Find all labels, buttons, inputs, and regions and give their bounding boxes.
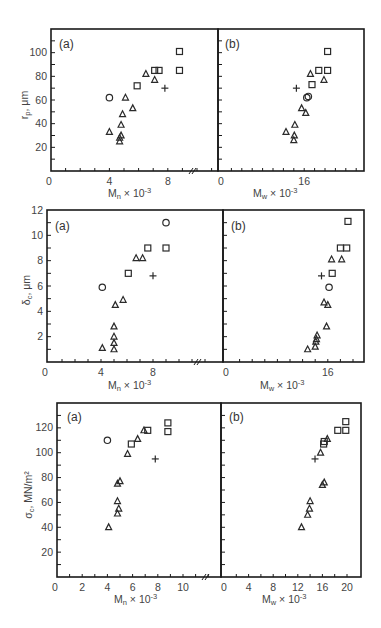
panel-label-mid-b: (b) [231,219,246,233]
svg-text:10: 10 [31,229,43,241]
marker-square [316,67,322,73]
svg-text:16: 16 [322,366,334,378]
marker-triangle [292,121,298,127]
svg-text:20: 20 [35,141,47,153]
ticks-bottom: 204060801001200246810048121620 [35,415,353,593]
marker-square [343,419,349,425]
svg-text:20: 20 [41,546,53,558]
marker-triangle [118,121,124,127]
svg-text:4: 4 [37,305,43,317]
svg-text:16: 16 [317,581,329,593]
frame-bot-b [221,403,361,577]
marker-triangle [122,94,128,100]
marker-triangle [120,297,126,303]
frame-bot-a [57,403,221,577]
marker-triangle [140,255,146,261]
marker-square [344,245,350,251]
marker-triangle [111,323,117,329]
marker-triangle [106,524,112,530]
marker-triangle [135,436,141,442]
row-middle: 24681012048016 (a) (b) δc, μm Mn × 10-3 … [20,204,364,394]
xlabel-top-a: Mn × 10-3 [108,186,151,201]
marker-triangle [111,333,117,339]
svg-text:100: 100 [35,446,53,458]
svg-text:2: 2 [37,330,43,342]
marker-triangle [299,105,305,111]
svg-text:0: 0 [42,366,48,378]
svg-text:16: 16 [298,175,310,187]
marker-circle [326,284,332,290]
marker-triangle [283,129,289,135]
marker-triangle [99,345,105,351]
marker-circle [106,94,112,100]
marker-triangle [298,524,304,530]
xlabel-top-b: Mw × 10-3 [253,186,298,201]
marker-square [125,270,131,276]
marker-triangle [305,511,311,517]
points-bot-a [104,420,171,530]
marker-triangle [339,256,345,262]
svg-text:8: 8 [270,581,276,593]
marker-triangle [133,255,139,261]
xlabel-bot-b: Mw × 10-3 [262,592,307,607]
xlabel-mid-b: Mw × 10-3 [260,378,305,393]
svg-text:6: 6 [37,280,43,292]
panel-label-bot-a: (a) [67,410,82,424]
row-top: 20406080100048016 (a) (b) rp, μm Mn × 10… [18,29,364,201]
svg-text:60: 60 [35,94,47,106]
marker-triangle [114,498,120,504]
marker-triangle [307,71,313,77]
points-mid-b [305,218,351,351]
row-bottom: 204060801001200246810048121620 (a) (b) σ… [22,403,361,607]
figure-canvas: 20406080100048016 (a) (b) rp, μm Mn × 10… [0,0,381,628]
marker-triangle [117,478,123,484]
ylabel-top: rp, μm [18,91,32,120]
marker-triangle [112,302,118,308]
svg-text:100: 100 [29,46,47,58]
svg-text:8: 8 [165,175,171,187]
svg-text:8: 8 [37,254,43,266]
panel-label-bot-b: (b) [229,410,244,424]
svg-text:40: 40 [41,521,53,533]
marker-circle [99,284,105,290]
panel-label-top-a: (a) [59,37,74,51]
marker-circle [104,437,110,443]
svg-text:10: 10 [177,581,189,593]
marker-square [176,48,182,54]
marker-triangle [152,76,158,82]
marker-square [165,420,171,426]
marker-triangle [120,111,126,117]
svg-text:0: 0 [218,175,224,187]
panel-label-mid-a: (a) [55,219,70,233]
ylabel-middle: δc, μm [20,275,34,305]
marker-triangle [324,323,330,329]
frame-mid-a [47,210,223,362]
svg-text:80: 80 [35,70,47,82]
marker-square [165,429,171,435]
marker-square [335,427,341,433]
marker-square [345,218,351,224]
marker-triangle [130,105,136,111]
svg-text:0: 0 [52,581,58,593]
points-top-b [283,48,331,142]
marker-triangle [111,346,117,352]
svg-text:0: 0 [221,581,227,593]
svg-text:40: 40 [35,117,47,129]
xlabel-bot-a: Mn × 10-3 [114,592,157,607]
marker-square [134,83,140,89]
svg-text:12: 12 [31,204,43,216]
svg-text:20: 20 [341,581,353,593]
marker-triangle [143,71,149,77]
svg-text:6: 6 [130,581,136,593]
marker-square [176,67,182,73]
marker-triangle [321,76,327,82]
marker-square [329,270,335,276]
svg-text:4: 4 [104,581,110,593]
marker-circle [163,219,169,225]
marker-triangle [318,449,324,455]
svg-text:80: 80 [41,471,53,483]
svg-text:4: 4 [246,581,252,593]
marker-square [145,245,151,251]
marker-triangle [305,346,311,352]
marker-square [309,82,315,88]
